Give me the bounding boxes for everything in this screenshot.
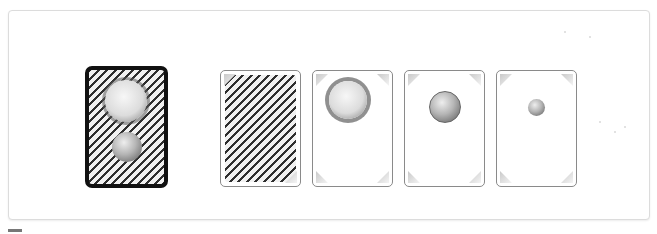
corner-decoration	[469, 74, 481, 86]
sparkle-decoration	[614, 131, 616, 133]
moon-icon	[528, 99, 545, 116]
corner-decoration	[316, 74, 328, 86]
corner-decoration	[561, 74, 573, 86]
planet-icon	[429, 91, 461, 123]
corner-decoration	[561, 171, 573, 183]
sun-icon	[105, 80, 147, 122]
corner-decoration	[500, 74, 512, 86]
corner-decoration	[408, 171, 420, 183]
corner-decoration	[377, 171, 389, 183]
corner-decoration	[316, 171, 328, 183]
sparkle-decoration	[564, 31, 566, 33]
status-indicator	[8, 229, 22, 232]
card-back[interactable]	[220, 70, 301, 187]
corner-decoration	[408, 74, 420, 86]
corner-decoration	[469, 171, 481, 183]
planet-icon	[112, 132, 142, 162]
game-board	[8, 10, 650, 220]
sun-icon	[329, 81, 367, 119]
corner-decoration	[500, 171, 512, 183]
card-back-pattern	[225, 75, 296, 182]
sparkle-decoration	[599, 121, 601, 123]
sun-card[interactable]	[312, 70, 393, 187]
planet-card[interactable]	[404, 70, 485, 187]
selected-deck-card[interactable]	[85, 66, 168, 188]
moon-card[interactable]	[496, 70, 577, 187]
sparkle-decoration	[624, 126, 626, 128]
sparkle-decoration	[589, 36, 591, 38]
corner-decoration	[377, 74, 389, 86]
